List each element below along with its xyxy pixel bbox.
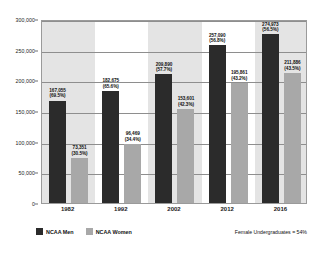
y-tick-label: 200,000 [16,78,35,84]
bar-percent: (65.6%) [102,84,119,90]
legend-swatch [36,228,43,235]
bar-men: 182,675(65.6%) [102,91,119,203]
bar-value-label: 182,675(65.6%) [102,78,119,89]
y-tick-mark [35,173,38,174]
bar-women: 96,469(34.4%) [124,144,141,203]
bar-women: 211,886(43.5%) [284,73,301,203]
bar-group: 167,055(69.5%)73,351(30.5%) [42,21,95,203]
bar-women: 73,351(30.5%) [71,158,88,203]
bar-percent: (42.3%) [178,102,195,108]
bar-value: 274,973 [262,22,279,28]
bar-percent: (43.5%) [284,66,300,72]
bar-value-label: 211,886(43.5%) [284,60,300,71]
legend: NCAA MenNCAA Women [36,228,132,235]
bar-men: 209,890(57.7%) [155,74,172,203]
bar-percent: (69.5%) [49,93,66,99]
y-tick-mark [35,204,38,205]
ncaa-participation-bar-chart: 050,000100,000150,000200,000250,000300,0… [0,0,317,253]
y-tick-mark [35,142,38,143]
bar-value: 73,351 [72,145,88,151]
plot-area: 167,055(69.5%)73,351(30.5%)182,675(65.6%… [41,20,307,204]
x-tick-label-2016: 2016 [274,206,287,212]
bar-value: 209,890 [156,62,173,68]
bar-value: 182,675 [102,78,119,84]
bar-value: 96,469 [125,131,141,137]
bar-value: 195,861 [231,70,248,76]
x-tick-label-2002: 2002 [167,206,180,212]
y-tick-mark [35,50,38,51]
y-tick-label: 250,000 [16,48,35,54]
y-tick-label: 50,000 [19,170,35,176]
bar-percent: (56.8%) [209,38,226,44]
legend-item-men: NCAA Men [36,228,74,235]
bar-value: 153,601 [178,96,195,102]
bar-women: 195,861(43.2%) [231,83,248,203]
bar-percent: (56.5%) [262,27,279,33]
x-tick-label-1992: 1992 [114,206,127,212]
bar-men: 274,973(56.5%) [262,34,279,203]
y-tick-label: 150,000 [16,109,35,115]
bar-value: 167,055 [49,88,66,94]
legend-swatch [86,228,93,235]
y-tick-mark [35,81,38,82]
bar-value-label: 153,601(42.3%) [178,96,195,107]
bar-percent: (57.7%) [156,67,173,73]
bar-value-label: 209,890(57.7%) [156,62,173,73]
female-undergraduates-note: Female Undergraduates = 54% [235,229,307,235]
legend-label: NCAA Men [46,229,74,235]
y-tick-label: 300,000 [16,17,35,23]
y-tick-mark [35,20,38,21]
bar-group: 274,973(56.5%)211,886(43.5%) [255,21,307,203]
bar-men: 257,090(56.8%) [209,45,226,203]
bar-group: 209,890(57.7%)153,601(42.3%) [148,21,201,203]
legend-label: NCAA Women [96,229,132,235]
bar-women: 153,601(42.3%) [177,109,194,203]
y-axis: 050,000100,000150,000200,000250,000300,0… [0,20,38,204]
bar-percent: (30.5%) [72,151,88,157]
y-tick-mark [35,112,38,113]
bar-value-label: 167,055(69.5%) [49,88,66,99]
bar-value-label: 73,351(30.5%) [72,145,88,156]
bar-value-label: 274,973(56.5%) [262,22,279,33]
bar-group: 182,675(65.6%)96,469(34.4%) [95,21,148,203]
bar-men: 167,055(69.5%) [49,101,66,203]
bar-value-label: 195,861(43.2%) [231,70,248,81]
x-axis: 19821992200220122016 [41,206,307,218]
bar-percent: (34.4%) [125,137,141,143]
bar-value: 257,090 [209,33,226,39]
bar-percent: (43.2%) [231,76,248,82]
bar-value-label: 96,469(34.4%) [125,131,141,142]
bar-group: 257,090(56.8%)195,861(43.2%) [202,21,255,203]
y-tick-label: 100,000 [16,140,35,146]
x-tick-label-2012: 2012 [221,206,234,212]
bar-value-label: 257,090(56.8%) [209,33,226,44]
legend-item-women: NCAA Women [86,228,132,235]
bar-value: 211,886 [284,60,300,66]
x-tick-label-1982: 1982 [61,206,74,212]
